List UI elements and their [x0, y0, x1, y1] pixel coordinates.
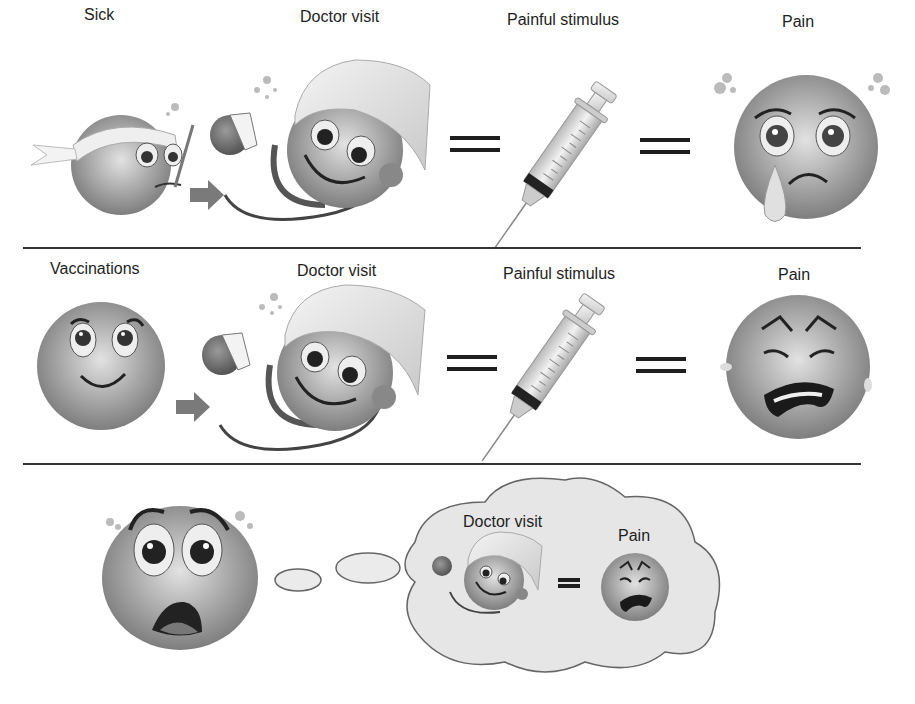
screaming-face-small-icon [598, 550, 673, 625]
doctor-small-icon [430, 532, 545, 622]
row-divider [23, 463, 861, 465]
equals-sign-icon [636, 357, 686, 373]
equals-sign-icon [640, 138, 690, 154]
row-divider [23, 247, 861, 249]
label-sick: Sick [84, 6, 114, 24]
worried-face-icon [102, 490, 262, 650]
sick-face-icon [25, 105, 195, 225]
label-doctor-visit: Doctor visit [300, 8, 379, 26]
label-pain: Pain [778, 266, 810, 284]
crying-face-icon [715, 70, 895, 230]
happy-face-icon [35, 302, 170, 432]
doctor-icon [200, 285, 430, 465]
label-painful-stimulus: Painful stimulus [503, 265, 615, 283]
screaming-face-icon [718, 295, 878, 440]
label-painful-stimulus: Painful stimulus [507, 11, 619, 29]
syringe-icon [478, 290, 608, 458]
equals-sign-icon [558, 578, 580, 588]
label-doctor-visit: Doctor visit [297, 262, 376, 280]
doctor-icon [205, 55, 435, 235]
label-pain: Pain [782, 13, 814, 31]
label-doctor-visit-thought: Doctor visit [463, 513, 542, 531]
label-pain-thought: Pain [618, 527, 650, 545]
syringe-icon [490, 78, 620, 246]
label-vaccinations: Vaccinations [50, 260, 140, 278]
